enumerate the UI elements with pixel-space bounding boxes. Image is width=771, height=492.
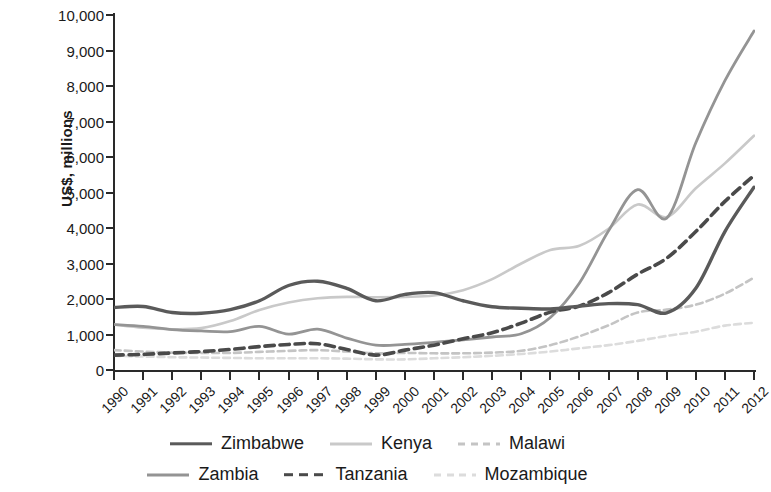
legend-row: ZimbabweKenyaMalawi [0,428,761,459]
x-axis-tick-label: 2006 [557,383,597,423]
legend-label: Zambia [198,464,258,485]
legend-swatch-zambia-icon [147,468,189,482]
y-axis-tick-labels: 01,0002,0003,0004,0005,0006,0007,0008,00… [34,0,104,392]
legend-item-malawi[interactable]: Malawi [458,433,591,454]
y-axis-tick-label: 8,000 [38,78,104,95]
x-axis-tick-mark [317,372,319,380]
y-axis-tick-label: 9,000 [38,42,104,59]
y-axis-tick-label: 2,000 [38,291,104,308]
x-axis-tick-mark [113,372,115,380]
legend-swatch-kenya-icon [330,437,372,451]
series-line-zambia [114,31,754,346]
x-axis-tick-mark [753,372,755,380]
legend-label: Kenya [381,433,432,454]
y-axis-tick-label: 4,000 [38,220,104,237]
legend-item-mozambique[interactable]: Mozambique [434,464,614,485]
x-axis-tick-mark [288,372,290,380]
x-axis-tick-mark [695,372,697,380]
x-axis-tick-label: 1996 [266,383,306,423]
x-axis-tick-mark [637,372,639,380]
series-line-kenya [114,136,754,330]
y-axis-tick-label: 3,000 [38,255,104,272]
legend-item-tanzania[interactable]: Tanzania [284,464,433,485]
x-axis-tick-label: 1995 [237,383,277,423]
x-axis-tick-mark [433,372,435,380]
plot-area [114,15,755,370]
x-axis-tick-mark [520,372,522,380]
x-axis-tick-mark [578,372,580,380]
y-axis-tick-label: 5,000 [38,184,104,201]
y-axis-tick-label: 10,000 [38,7,104,24]
x-axis-tick-mark [200,372,202,380]
x-axis-tick-mark [491,372,493,380]
x-axis-tick-mark [229,372,231,380]
x-axis-tick-mark [549,372,551,380]
x-axis-tick-mark [608,372,610,380]
x-axis-tick-mark [375,372,377,380]
legend-item-zambia[interactable]: Zambia [147,464,284,485]
x-axis-tick-label: 2007 [586,383,626,423]
legend-label: Mozambique [485,464,588,485]
y-axis-tick-label: 6,000 [38,149,104,166]
legend-label: Tanzania [335,464,407,485]
y-axis-tick-label: 1,000 [38,326,104,343]
chart-legend: ZimbabweKenyaMalawiZambiaTanzaniaMozambi… [0,428,761,490]
legend-swatch-mozambique-icon [434,468,476,482]
legend-swatch-tanzania-icon [284,468,326,482]
series-lines [114,15,755,370]
x-axis-tick-mark [462,372,464,380]
legend-label: Malawi [509,433,565,454]
x-axis-tick-mark [666,372,668,380]
legend-item-kenya[interactable]: Kenya [330,433,458,454]
x-axis-tick-mark [346,372,348,380]
x-axis-tick-mark [404,372,406,380]
x-axis-tick-mark [258,372,260,380]
legend-row: ZambiaTanzaniaMozambique [0,459,761,490]
legend-swatch-zimbabwe-icon [170,437,212,451]
x-axis-tick-mark [142,372,144,380]
legend-item-zimbabwe[interactable]: Zimbabwe [170,433,330,454]
x-axis-tick-mark [171,372,173,380]
legend-label: Zimbabwe [221,433,304,454]
series-line-tanzania [114,175,754,355]
x-axis-tick-mark [724,372,726,380]
y-axis-tick-label: 7,000 [38,113,104,130]
y-axis-tick-label: 0 [38,362,104,379]
legend-swatch-malawi-icon [458,437,500,451]
